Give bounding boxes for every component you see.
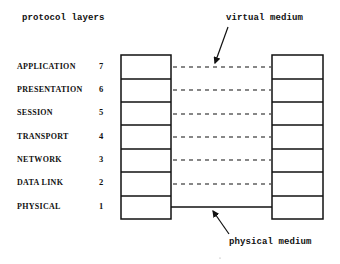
speck-dot: [219, 257, 220, 258]
physical-medium-arrow: [213, 211, 229, 234]
virtual-medium-connections: [173, 67, 271, 184]
virtual-medium-arrow: [215, 27, 228, 63]
osi-stack-diagram: [0, 0, 340, 264]
right-protocol-stack: [272, 55, 323, 219]
left-protocol-stack: [121, 55, 171, 219]
